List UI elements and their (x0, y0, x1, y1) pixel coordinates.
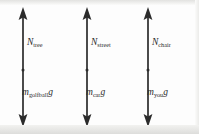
weight-mass-symbol: m (22, 87, 29, 97)
weight-mass-symbol: m (86, 87, 93, 97)
weight-mass-symbol: m (147, 87, 154, 97)
double-arrow-icon (64, 0, 126, 134)
gravity-symbol: g (100, 87, 105, 97)
scan-artifact-right (195, 0, 199, 134)
double-arrow-icon (125, 0, 187, 134)
double-arrow-icon (0, 0, 62, 134)
normal-force-subscript: chair (158, 41, 170, 48)
normal-force-subscript: tree (33, 41, 42, 48)
normal-force-label: Ntree (27, 38, 43, 48)
free-body-diagram-figure: Ntree mgolfballg Nstreet mcarg Nchai (0, 0, 199, 134)
weight-force-label: mcarg (86, 88, 105, 98)
free-body-diagram-car-on-street: Nstreet mcarg (64, 0, 126, 134)
gravity-symbol: g (163, 87, 168, 97)
weight-mass-subscript: golfball (29, 91, 48, 98)
free-body-diagram-golfball-on-tree: Ntree mgolfballg (0, 0, 62, 134)
weight-mass-subscript: you (154, 91, 163, 98)
weight-force-label: mgolfballg (22, 88, 53, 98)
normal-force-label: Nchair (152, 38, 171, 48)
free-body-diagram-you-on-chair: Nchair myoug (125, 0, 187, 134)
normal-force-subscript: street (97, 41, 110, 48)
gravity-symbol: g (48, 87, 53, 97)
weight-mass-subscript: car (93, 91, 101, 98)
weight-force-label: myoug (147, 88, 168, 98)
normal-force-label: Nstreet (91, 38, 111, 48)
